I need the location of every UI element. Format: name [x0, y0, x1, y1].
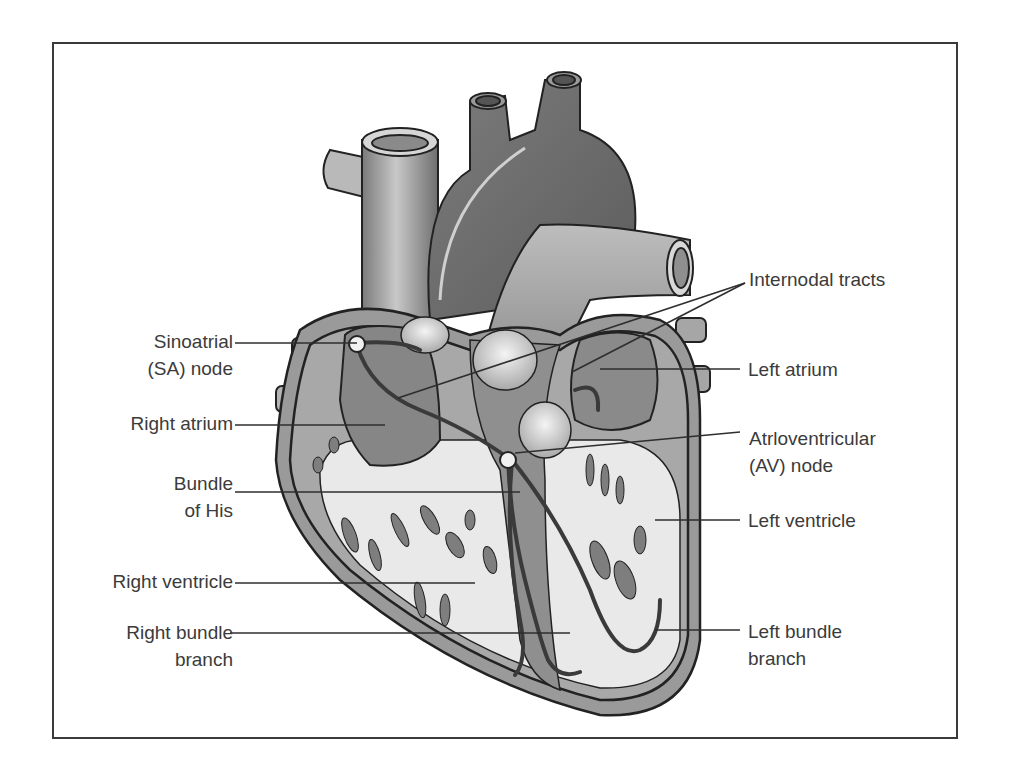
- label-bundle-of-his: Bundle of His: [174, 470, 233, 524]
- av-node-marker: [500, 452, 516, 468]
- label-right-bundle-branch: Right bundle branch: [126, 619, 233, 673]
- label-left-ventricle: Left ventricle: [748, 507, 856, 534]
- label-left-bundle-branch: Left bundle branch: [748, 618, 842, 672]
- label-left-atrium: Left atrium: [748, 356, 838, 383]
- label-right-ventricle: Right ventricle: [113, 568, 233, 595]
- label-internodal-tracts: Internodal tracts: [749, 266, 885, 293]
- left-atrium-chamber: [571, 333, 658, 431]
- sa-node-marker: [349, 336, 365, 352]
- label-av-node: Atrloventricular (AV) node: [749, 425, 876, 479]
- label-sa-node: Sinoatrial (SA) node: [147, 328, 233, 382]
- label-right-atrium: Right atrium: [131, 410, 233, 437]
